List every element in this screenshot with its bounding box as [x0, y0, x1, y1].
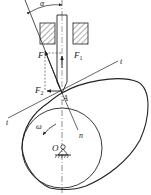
cam-follower-diagram: α F F1 F2 A t t n ω O — [0, 0, 151, 195]
tangent-label-left: t — [6, 118, 9, 127]
normal-label: n — [79, 131, 83, 140]
force-F2-label: F2 — [34, 85, 44, 96]
normal-line — [62, 93, 78, 130]
guide-block-right — [73, 23, 88, 44]
alpha-label: α — [40, 0, 45, 8]
force-F-label: F — [37, 50, 44, 60]
omega-label: ω — [36, 122, 42, 131]
pivot-O-label: O — [52, 143, 59, 153]
alpha-angle-arc — [30, 5, 62, 12]
tangent-label-right: t — [120, 57, 123, 66]
rotation-arrow-icon — [43, 124, 56, 135]
guide-block-left — [40, 23, 55, 44]
force-F1-label: F1 — [73, 50, 83, 61]
